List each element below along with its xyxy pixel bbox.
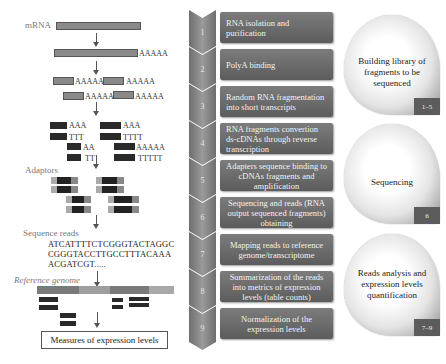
polya-mrna-strand xyxy=(54,49,138,57)
step-9: 9 Normalization of the expression levels xyxy=(189,306,329,342)
arrow-down-icon xyxy=(96,155,97,165)
step-number: 8 xyxy=(189,287,216,296)
step-2: 2 PolyA binding xyxy=(189,47,329,83)
cdna-tail: TT xyxy=(85,155,95,163)
cdna-fragment xyxy=(50,122,67,129)
step-8: 8 Summarization of the reads into metric… xyxy=(189,269,329,305)
sequence-read-line: ACGATCGT..... xyxy=(48,259,106,269)
step-text: Adapters sequence binding to cDNAs fragm… xyxy=(220,160,333,191)
step-text: Random RNA fragmentation into short tran… xyxy=(220,86,333,117)
mapped-read xyxy=(112,305,123,309)
step-text: Sequencing and reads (RNA output sequenc… xyxy=(220,197,333,228)
adaptor-fragment xyxy=(66,206,91,213)
step-number: 1 xyxy=(189,28,216,37)
cdna-tail: AAAAA xyxy=(136,144,165,152)
cdna-fragment xyxy=(50,133,67,140)
step-text: Summarization of the reads into metrics … xyxy=(220,271,333,302)
arrow-down-icon xyxy=(96,102,97,112)
cdna-tail: TTTTT xyxy=(138,155,162,163)
arrow-down-icon xyxy=(96,215,97,225)
cdna-fragment xyxy=(67,154,81,161)
cdna-tail: AA xyxy=(83,144,95,152)
step-text: RNA isolation and purification xyxy=(220,12,333,43)
adaptor-fragment xyxy=(51,177,78,184)
phase-step-range: 1–5 xyxy=(414,98,440,115)
cdna-fragment xyxy=(114,143,135,150)
step-4: 4 RNA fragments convertion ds-cDNAs thro… xyxy=(189,121,329,157)
reference-genome-label: Reference genome xyxy=(14,275,80,285)
mapped-read xyxy=(39,305,58,310)
cdna-tail: TTTT xyxy=(123,134,143,142)
arrow-down-icon xyxy=(96,33,97,43)
phase-title: Reads analysis and expression levels qua… xyxy=(344,268,440,301)
mrna-strand xyxy=(56,22,141,30)
mapped-read xyxy=(60,321,76,326)
adaptor-fragment xyxy=(96,177,124,184)
mrna-label: mRNA xyxy=(25,20,51,30)
adaptor-fragment xyxy=(96,186,124,193)
rna-fragment xyxy=(113,91,134,99)
adaptor-fragment xyxy=(108,206,139,213)
adaptors-label: Adaptors xyxy=(25,165,58,175)
phase-bubble-library: Building library of fragments to be sequ… xyxy=(344,15,440,115)
step-number: 7 xyxy=(189,250,216,259)
cdna-tail: AAA xyxy=(123,122,140,130)
step-number: 4 xyxy=(189,139,216,148)
step-text: PolyA binding xyxy=(220,49,333,80)
fragment-tail: AAAAA xyxy=(85,93,114,101)
arrow-down-icon xyxy=(97,312,98,324)
phase-bubble-sequencing: Sequencing 6 xyxy=(344,124,440,224)
step-6: 6 Sequencing and reads (RNA output seque… xyxy=(189,195,329,231)
phase-step-range: 7–9 xyxy=(414,319,440,336)
fragment-tail: AAAAA xyxy=(135,93,164,101)
adaptor-fragment xyxy=(108,196,139,203)
cdna-fragment xyxy=(114,154,135,161)
sequence-read-line: ATCATTTTCTCGGGTACTAGGC xyxy=(48,239,174,249)
phase-bubble-analysis: Reads analysis and expression levels qua… xyxy=(344,234,440,336)
phase-step-range: 6 xyxy=(414,207,440,224)
mapped-read xyxy=(129,297,149,301)
cdna-tail: AAA xyxy=(69,122,86,130)
step-7: 7 Mapping reads to reference genome/tran… xyxy=(189,232,329,268)
adaptor-fragment xyxy=(66,196,91,203)
cdna-fragment xyxy=(67,143,81,150)
step-text: Normalization of the expression levels xyxy=(220,308,333,339)
step-3: 3 Random RNA fragmentation into short tr… xyxy=(189,84,329,120)
step-1: 1 RNA isolation and purification xyxy=(189,10,329,46)
mapped-read xyxy=(112,298,123,302)
reference-genome-bar xyxy=(37,286,174,294)
rna-fragment xyxy=(63,92,84,100)
step-text: RNA fragments convertion ds-cDNAs throug… xyxy=(220,123,333,154)
rna-fragment xyxy=(103,77,124,85)
cdna-fragment xyxy=(100,133,121,140)
sequence-read-line: CGGGTACCTTGCCTTTACAAA xyxy=(48,249,171,259)
measures-box: Measures of expression levels xyxy=(41,331,168,349)
phase-title: Sequencing xyxy=(344,177,440,188)
step-number: 2 xyxy=(189,65,216,74)
fragment-tail: AAAAA xyxy=(126,78,155,86)
mapped-read xyxy=(39,297,58,302)
cdna-tail: TTT xyxy=(69,134,84,142)
step-text: Mapping reads to reference genome/transc… xyxy=(220,234,333,265)
adaptor-fragment xyxy=(51,186,78,193)
step-number: 5 xyxy=(189,176,216,185)
cdna-fragment xyxy=(100,122,121,129)
step-5: 5 Adapters sequence binding to cDNAs fra… xyxy=(189,158,329,194)
rna-fragment xyxy=(53,77,74,85)
step-number: 9 xyxy=(189,324,216,333)
sequence-reads-label: Sequence reads xyxy=(23,228,79,238)
mapped-read xyxy=(129,303,149,307)
arrow-down-icon xyxy=(96,61,97,71)
polya-tail: AAAAA xyxy=(139,50,168,58)
step-number: 3 xyxy=(189,102,216,111)
fragment-tail: AAAAA xyxy=(75,78,104,86)
mapped-read xyxy=(60,313,76,318)
step-number: 6 xyxy=(189,213,216,222)
arrow-down-icon xyxy=(97,271,98,283)
phase-title: Building library of fragments to be sequ… xyxy=(344,56,440,89)
